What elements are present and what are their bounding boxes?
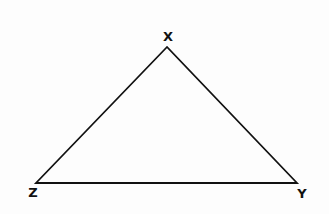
- vertex-label-x: X: [163, 29, 173, 44]
- triangle-xyz: [36, 47, 297, 183]
- vertex-label-z: Z: [28, 185, 37, 200]
- triangle-svg: X Z Y: [0, 0, 329, 214]
- vertex-label-y: Y: [296, 186, 307, 201]
- triangle-diagram: X Z Y: [0, 0, 329, 214]
